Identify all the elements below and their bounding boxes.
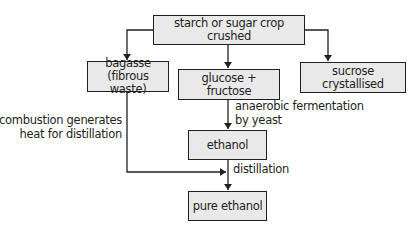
node-label-line2: (fibrous waste) [88, 70, 168, 96]
edge-label-line1: combustion generates [0, 114, 122, 128]
edge-label-combustion: combustion generates heat for distillati… [0, 114, 122, 141]
edge-label-line2: by yeast [235, 114, 364, 128]
edge-label-line1: distillation [233, 163, 289, 177]
node-label: pure ethanol [193, 200, 263, 213]
node-label: glucose + fructose [179, 72, 279, 98]
edge-label-fermentation: anaerobic fermentation by yeast [235, 100, 364, 127]
node-bagasse: bagasse (fibrous waste) [87, 61, 169, 92]
node-sucrose-crystallised: sucrose crystallised [300, 62, 406, 93]
node-glucose-fructose: glucose + fructose [178, 69, 280, 100]
edge-label-distillation: distillation [233, 163, 289, 177]
edge-label-line1: anaerobic fermentation [235, 100, 364, 114]
node-label: ethanol [207, 139, 248, 152]
node-label: sucrose crystallised [301, 65, 405, 91]
node-label: starch or sugar crop crushed [154, 17, 304, 43]
node-crop-crushed: starch or sugar crop crushed [153, 15, 305, 45]
edge-label-line2: heat for distillation [0, 128, 122, 142]
node-pure-ethanol: pure ethanol [188, 191, 267, 221]
arrow-crop-to-sucrose [304, 30, 328, 61]
node-ethanol: ethanol [188, 130, 267, 160]
